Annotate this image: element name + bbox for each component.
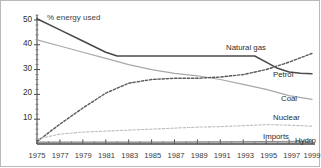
x-tick-label-1999: 1999 — [304, 151, 321, 160]
y-tick-label-30: 30 — [23, 64, 33, 73]
series-line-petrol — [37, 19, 312, 74]
x-tick-label-1987: 1987 — [168, 151, 185, 160]
series-label-hydro: Hydro — [295, 136, 316, 145]
y-tick-label-10: 10 — [23, 113, 33, 122]
x-tick-label-1975: 1975 — [29, 151, 46, 160]
x-tick-label-1983: 1983 — [121, 151, 138, 160]
series-label-coal: Coal — [281, 94, 297, 103]
series-line-coal — [37, 40, 312, 100]
x-tick-label-1993: 1993 — [237, 151, 254, 160]
y-tick-label-20: 20 — [23, 88, 33, 97]
x-tick-label-1977: 1977 — [52, 151, 69, 160]
x-tick-label-1991: 1991 — [214, 151, 231, 160]
x-tick-label-1979: 1979 — [75, 151, 92, 160]
series-label-imports: Imports — [263, 132, 289, 141]
line-chart: % energy used 50 40 30 20 10 1975 1977 1… — [1, 1, 321, 168]
x-tick-label-1981: 1981 — [98, 151, 115, 160]
x-tick-label-1995: 1995 — [260, 151, 277, 160]
series-label-nuclear: Nuclear — [273, 113, 300, 122]
x-tick-label-1985: 1985 — [144, 151, 161, 160]
series-lines — [37, 19, 312, 143]
series-line-imports — [37, 141, 312, 142]
y-tick-label-50: 50 — [23, 15, 33, 24]
series-label-natural-gas: Natural gas — [226, 43, 266, 52]
series-label-petrol: Petrol — [273, 70, 294, 79]
x-tick-label-1997: 1997 — [283, 151, 300, 160]
chart-title: % energy used — [47, 13, 100, 22]
x-tick-label-1989: 1989 — [191, 151, 208, 160]
y-tick-label-40: 40 — [23, 39, 33, 48]
